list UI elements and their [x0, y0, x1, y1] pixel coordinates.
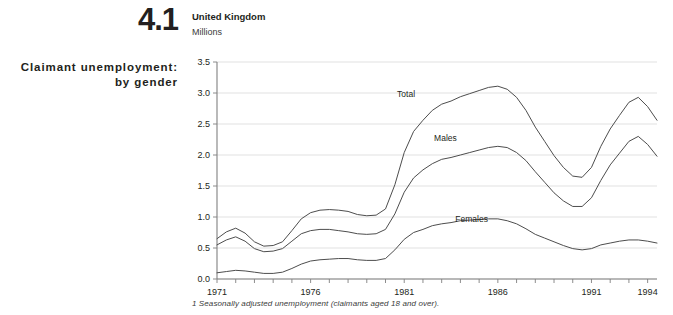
- y-tick-label: 0.5: [197, 243, 210, 253]
- series-line-males: [217, 136, 657, 251]
- series-line-females: [217, 219, 657, 274]
- x-tick-label: 1991: [581, 287, 601, 297]
- series-label-males: Males: [434, 133, 457, 143]
- chart-footnote: 1 Seasonally adjusted unemployment (clai…: [192, 299, 439, 308]
- x-tick-label: 1986: [488, 287, 508, 297]
- series-line-total: [217, 86, 657, 246]
- y-tick-label: 0.0: [197, 274, 210, 284]
- figure-page: 4.1 Claimant unemployment: by gender Uni…: [0, 0, 673, 315]
- x-tick-label: 1981: [394, 287, 414, 297]
- y-tick-label: 1.5: [197, 181, 210, 191]
- line-chart: 0.00.51.01.52.02.53.03.51971197619811986…: [0, 0, 673, 315]
- x-tick-label: 1994: [638, 287, 658, 297]
- series-label-total: Total: [397, 89, 415, 99]
- y-tick-label: 3.5: [197, 57, 210, 67]
- series-label-females: Females: [455, 214, 488, 224]
- y-tick-label: 1.0: [197, 212, 210, 222]
- y-tick-label: 2.5: [197, 119, 210, 129]
- y-tick-label: 2.0: [197, 150, 210, 160]
- x-tick-label: 1976: [301, 287, 321, 297]
- x-tick-label: 1971: [207, 287, 227, 297]
- y-tick-label: 3.0: [197, 88, 210, 98]
- chart-plot-area: 0.00.51.01.52.02.53.03.51971197619811986…: [0, 0, 673, 315]
